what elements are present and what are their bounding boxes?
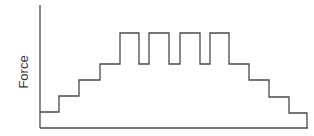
force-step-line: [40, 33, 307, 128]
y-axis-label: Force: [16, 55, 31, 88]
axes: [40, 5, 308, 128]
force-step-chart: Force: [0, 0, 314, 136]
